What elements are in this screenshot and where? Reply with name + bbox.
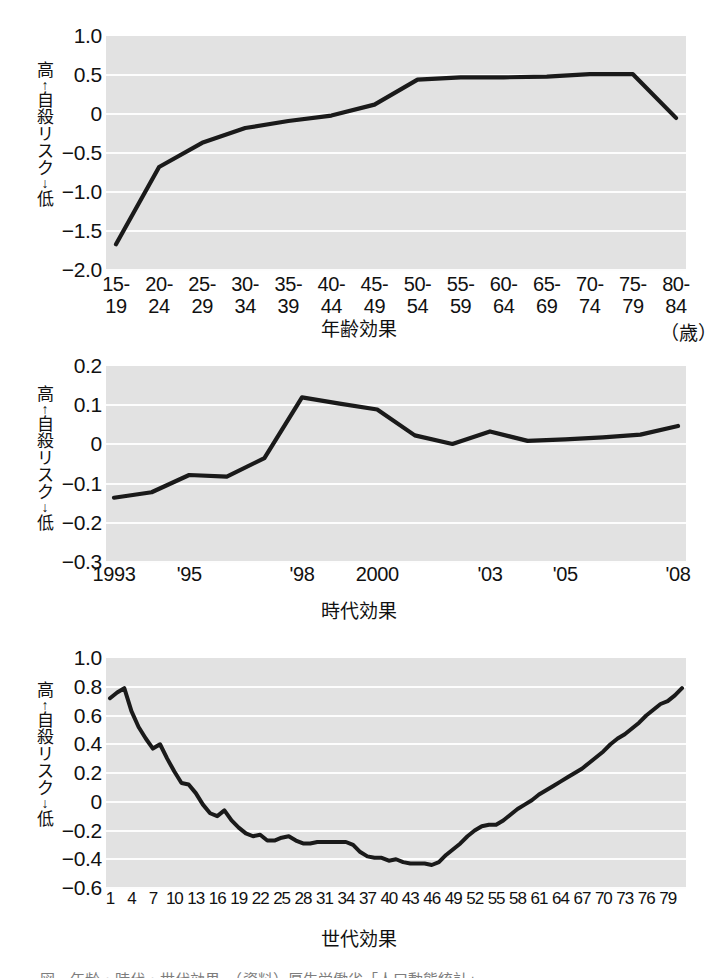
x-axis-title-period: 時代効果 xyxy=(0,596,718,623)
y-axis-tick-label: −0.5 xyxy=(62,141,102,165)
chart-panel-period-effect: 高↑自殺リスク↓低 0.20.10−0.1−0.2−0.3 1993'95'98… xyxy=(0,330,718,630)
x-axis-tick-label: 20-24 xyxy=(145,274,173,317)
y-axis-tick-label: 0 xyxy=(91,102,102,126)
y-axis-tick-label: 0.1 xyxy=(74,393,102,417)
x-axis-tick-label: 43 xyxy=(402,890,419,908)
y-axis-tick-label: 0 xyxy=(91,790,102,814)
y-axis-tick-label: −0.2 xyxy=(62,511,102,535)
x-axis-tick-label: 75-79 xyxy=(619,274,647,317)
y-axis-tick-label: 1.0 xyxy=(74,646,102,670)
y-axis-tick-labels-age: 1.00.50−0.5−1.0−1.5−2.0 xyxy=(48,36,102,270)
x-axis-tick-label: 61 xyxy=(531,890,548,908)
x-axis-tick-label: 31 xyxy=(316,890,333,908)
chart-panel-age-effect: 高↑自殺リスク↓低 1.00.50−0.5−1.0−1.5−2.0 15-192… xyxy=(0,0,718,340)
x-axis-tick-label: 55-59 xyxy=(447,274,475,317)
x-axis-tick-label: 28 xyxy=(295,890,312,908)
y-axis-tick-label: 0.2 xyxy=(74,761,102,785)
y-axis-tick-label: 0.4 xyxy=(74,732,102,756)
x-axis-tick-label: 2000 xyxy=(356,564,399,586)
x-axis-tick-label: 52 xyxy=(466,890,483,908)
x-axis-tick-label: 46 xyxy=(423,890,440,908)
y-axis-tick-label: −0.4 xyxy=(62,847,102,871)
x-axis-tick-label: 34 xyxy=(337,890,354,908)
x-axis-tick-label: 1 xyxy=(106,890,114,908)
x-axis-tick-label: 25 xyxy=(273,890,290,908)
x-axis-tick-label: 58 xyxy=(509,890,526,908)
y-axis-tick-label: −0.1 xyxy=(62,472,102,496)
y-axis-tick-label: −0.2 xyxy=(62,819,102,843)
plot-area-period-effect xyxy=(106,366,686,562)
x-axis-tick-label: 67 xyxy=(573,890,590,908)
x-axis-tick-label: 55 xyxy=(488,890,505,908)
x-axis-tick-label: 49 xyxy=(445,890,462,908)
y-axis-tick-label: 0.8 xyxy=(74,675,102,699)
chart-panel-cohort-effect: 高↑自殺リスク↓低 1.00.80.60.40.20−0.2−0.4−0.6 1… xyxy=(0,630,718,978)
x-axis-tick-label: 65-69 xyxy=(533,274,561,317)
x-axis-tick-label: 70-74 xyxy=(576,274,604,317)
y-axis-tick-label: 0 xyxy=(91,432,102,456)
figure-caption: 図 年齢・時代・世代効果 （資料）厚生労働省「人口動態統計」 xyxy=(40,968,680,978)
y-axis-tick-label: 0.5 xyxy=(74,63,102,87)
x-axis-tick-label: 16 xyxy=(209,890,226,908)
x-axis-tick-label: 80-84 xyxy=(662,274,690,317)
x-axis-tick-label: 45-49 xyxy=(361,274,389,317)
x-axis-tick-label: 37 xyxy=(359,890,376,908)
x-axis-tick-label: '98 xyxy=(290,564,315,586)
x-axis-tick-label: 25-29 xyxy=(188,274,216,317)
x-axis-tick-label: 60-64 xyxy=(490,274,518,317)
y-axis-tick-labels-period: 0.20.10−0.1−0.2−0.3 xyxy=(48,366,102,562)
x-axis-tick-label: 76 xyxy=(638,890,655,908)
y-axis-tick-label: 1.0 xyxy=(74,24,102,48)
x-axis-tick-label: 7 xyxy=(149,890,157,908)
data-series-line xyxy=(106,366,686,562)
plot-area-cohort-effect xyxy=(106,658,686,888)
x-axis-tick-label: 4 xyxy=(127,890,135,908)
y-axis-tick-label: 0.2 xyxy=(74,354,102,378)
x-axis-tick-label: 40-44 xyxy=(318,274,346,317)
x-axis-tick-label: 19 xyxy=(230,890,247,908)
x-axis-tick-label: 35-39 xyxy=(274,274,302,317)
x-axis-tick-label: 22 xyxy=(252,890,269,908)
x-axis-tick-label: 73 xyxy=(616,890,633,908)
data-series-line xyxy=(106,36,686,270)
x-axis-tick-label: 30-34 xyxy=(231,274,259,317)
x-axis-tick-label: 40 xyxy=(380,890,397,908)
y-axis-tick-label: −1.5 xyxy=(62,219,102,243)
x-axis-title-cohort: 世代効果 xyxy=(0,924,718,951)
y-axis-tick-labels-cohort: 1.00.80.60.40.20−0.2−0.4−0.6 xyxy=(48,658,102,888)
x-axis-tick-label: 13 xyxy=(187,890,204,908)
plot-area-age-effect xyxy=(106,36,686,270)
y-axis-tick-label: −1.0 xyxy=(62,180,102,204)
x-axis-tick-label: 15-19 xyxy=(102,274,130,317)
x-axis-tick-label: 64 xyxy=(552,890,569,908)
x-axis-tick-label: 10 xyxy=(166,890,183,908)
data-series-line xyxy=(106,658,686,888)
x-axis-tick-label: '03 xyxy=(478,564,503,586)
x-axis-tick-label: 50-54 xyxy=(404,274,432,317)
x-axis-tick-label: 1993 xyxy=(93,564,136,586)
x-axis-tick-label: '08 xyxy=(666,564,691,586)
x-axis-tick-label: '95 xyxy=(177,564,202,586)
y-axis-tick-label: 0.6 xyxy=(74,704,102,728)
x-axis-tick-label: 79 xyxy=(659,890,676,908)
x-axis-tick-label: 70 xyxy=(595,890,612,908)
x-axis-tick-label: '05 xyxy=(553,564,578,586)
